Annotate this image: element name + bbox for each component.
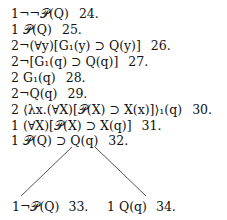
line-number: 33.: [68, 199, 88, 214]
branch-left: 1¬𝒫(Q)33.: [12, 199, 88, 215]
left-branch-line: [21, 147, 72, 196]
branch-right: 1 Q(q)34.: [107, 199, 176, 215]
branch-lines: [0, 0, 227, 220]
formula: 1 Q(q): [107, 199, 147, 214]
formula: 1¬𝒫(Q): [12, 199, 59, 214]
line-number: 34.: [156, 199, 176, 214]
right-branch-line: [95, 147, 146, 196]
